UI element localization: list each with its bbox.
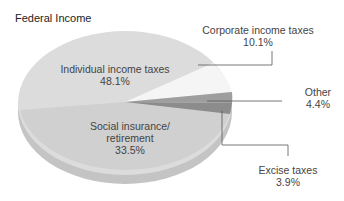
label-social-pct: 33.5% [75,144,185,156]
label-other: Other 4.4% [293,86,343,110]
leader-excise [222,111,288,156]
label-corporate-pct: 10.1% [198,36,318,48]
label-corporate-name: Corporate income taxes [198,24,318,36]
label-individual-name: Individual income taxes [50,63,180,75]
label-other-pct: 4.4% [293,98,343,110]
label-social: Social insurance/ retirement 33.5% [75,120,185,156]
label-individual-pct: 48.1% [50,75,180,87]
label-corporate: Corporate income taxes 10.1% [198,24,318,48]
label-social-name2: retirement [75,132,185,144]
label-social-name1: Social insurance/ [75,120,185,132]
label-excise-name: Excise taxes [248,164,328,176]
label-excise-pct: 3.9% [248,176,328,188]
label-individual: Individual income taxes 48.1% [50,63,180,87]
label-other-name: Other [293,86,343,98]
label-excise: Excise taxes 3.9% [248,164,328,188]
